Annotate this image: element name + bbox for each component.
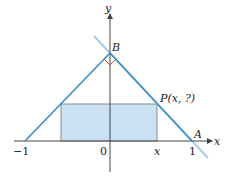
diagram-canvas: y x B A P(x, ?) −1 0 x 1	[0, 0, 227, 178]
point-b-label: B	[111, 41, 120, 54]
tick-neg1-label: −1	[13, 145, 29, 158]
tick-x-label: x	[154, 145, 161, 158]
y-axis-label: y	[104, 2, 112, 15]
inscribed-rectangle	[61, 104, 157, 141]
point-p-label: P(x, ?)	[159, 92, 195, 105]
x-axis-label: x	[214, 135, 221, 148]
tick-1-label: 1	[189, 145, 196, 158]
tick-0-label: 0	[100, 145, 107, 158]
point-a-label: A	[193, 128, 202, 141]
